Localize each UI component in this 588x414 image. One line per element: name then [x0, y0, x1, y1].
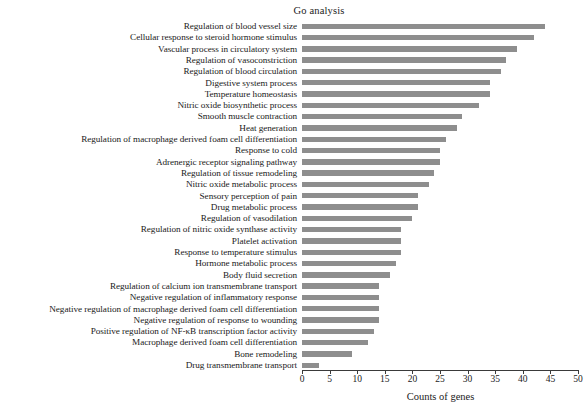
- x-tick-label: 20: [400, 374, 424, 384]
- bar: [302, 295, 379, 300]
- bar: [302, 238, 401, 243]
- category-label: Regulation of nitric oxide synthase acti…: [141, 224, 297, 235]
- bar-row: Heat generation: [0, 123, 588, 134]
- bar-row: Adrenergic receptor signaling pathway: [0, 157, 588, 168]
- bar: [302, 283, 379, 288]
- category-label: Nitric oxide biosynthetic process: [177, 100, 297, 111]
- bar-row: Platelet activation: [0, 236, 588, 247]
- bar: [302, 69, 501, 74]
- bar-row: Smooth muscle contraction: [0, 111, 588, 122]
- bar: [302, 57, 506, 62]
- category-label: Digestive system process: [205, 78, 297, 89]
- bar-row: Drug metabolic process: [0, 202, 588, 213]
- bar: [302, 137, 446, 142]
- bar: [302, 170, 434, 175]
- x-tick-label: 0: [290, 374, 314, 384]
- category-label: Response to cold: [235, 145, 297, 156]
- chart-title: Go analysis: [25, 5, 588, 16]
- category-label: Regulation of tissue remodeling: [181, 168, 297, 179]
- bar-row: Digestive system process: [0, 78, 588, 89]
- category-label: Platelet activation: [232, 236, 297, 247]
- x-axis-label: Counts of genes: [302, 391, 579, 402]
- bar-row: Regulation of vasoconstriction: [0, 55, 588, 66]
- category-label: Negative regulation of response to wound…: [134, 315, 297, 326]
- category-label: Drug metabolic process: [211, 202, 297, 213]
- category-label: Regulation of blood vessel size: [184, 21, 297, 32]
- bar-row: Regulation of macrophage derived foam ce…: [0, 134, 588, 145]
- bar-row: Regulation of tissue remodeling: [0, 168, 588, 179]
- bar-row: Regulation of blood circulation: [0, 66, 588, 77]
- category-label: Sensory perception of pain: [200, 191, 297, 202]
- bar-row: Temperature homeostasis: [0, 89, 588, 100]
- category-label: Smooth muscle contraction: [198, 111, 297, 122]
- bar: [302, 272, 390, 277]
- category-label: Hormone metabolic process: [195, 258, 297, 269]
- x-tick-label: 35: [483, 374, 507, 384]
- category-label: Cellular response to steroid hormone sti…: [130, 32, 297, 43]
- bar-row: Bone remodeling: [0, 349, 588, 360]
- bar: [302, 24, 545, 29]
- bar: [302, 114, 462, 119]
- category-label: Regulation of macrophage derived foam ce…: [81, 134, 297, 145]
- x-tick-label: 5: [318, 374, 342, 384]
- bar: [302, 204, 418, 209]
- bar: [302, 193, 418, 198]
- bar: [302, 306, 379, 311]
- bar-row: Negative regulation of response to wound…: [0, 315, 588, 326]
- category-label: Negative regulation of inflammatory resp…: [130, 292, 297, 303]
- category-label: Body fluid secretion: [223, 270, 297, 281]
- x-tick-label: 25: [428, 374, 452, 384]
- x-tick-label: 10: [345, 374, 369, 384]
- category-label: Vascular process in circulatory system: [158, 44, 297, 55]
- bar: [302, 216, 412, 221]
- bar: [302, 340, 368, 345]
- category-label: Regulation of blood circulation: [183, 66, 297, 77]
- bar: [302, 227, 401, 232]
- bar-row: Negative regulation of inflammatory resp…: [0, 292, 588, 303]
- bar-row: Nitric oxide biosynthetic process: [0, 100, 588, 111]
- category-label: Nitric oxide metabolic process: [186, 179, 297, 190]
- bar-row: Positive regulation of NF-κB transcripti…: [0, 326, 588, 337]
- category-label: Drug transmembrane transport: [186, 360, 297, 371]
- bar: [302, 317, 379, 322]
- category-label: Regulation of vasodilation: [201, 213, 297, 224]
- bar: [302, 261, 396, 266]
- category-label: Bone remodeling: [234, 349, 297, 360]
- bar: [302, 351, 352, 356]
- bar: [302, 363, 319, 368]
- category-label: Heat generation: [239, 123, 297, 134]
- bar-row: Regulation of vasodilation: [0, 213, 588, 224]
- category-label: Macrophage derived foam cell differentia…: [132, 337, 297, 348]
- bar-row: Nitric oxide metabolic process: [0, 179, 588, 190]
- bar: [302, 125, 457, 130]
- category-label: Response to temperature stimulus: [174, 247, 297, 258]
- x-tick-label: 45: [538, 374, 562, 384]
- category-label: Regulation of calcium ion transmembrane …: [110, 281, 297, 292]
- bar: [302, 159, 440, 164]
- bar-row: Body fluid secretion: [0, 270, 588, 281]
- bar: [302, 182, 429, 187]
- bar: [302, 91, 490, 96]
- bar: [302, 80, 490, 85]
- bar: [302, 35, 534, 40]
- bar-row: Vascular process in circulatory system: [0, 44, 588, 55]
- x-tick-label: 15: [373, 374, 397, 384]
- bar: [302, 329, 374, 334]
- bar-row: Macrophage derived foam cell differentia…: [0, 337, 588, 348]
- x-tick-label: 40: [511, 374, 535, 384]
- category-label: Adrenergic receptor signaling pathway: [156, 157, 297, 168]
- bar: [302, 148, 440, 153]
- bar-row: Sensory perception of pain: [0, 191, 588, 202]
- bar: [302, 46, 517, 51]
- bar-row: Response to cold: [0, 145, 588, 156]
- go-analysis-bar-chart: Go analysis Regulation of blood vessel s…: [0, 0, 588, 414]
- bar-row: Regulation of nitric oxide synthase acti…: [0, 224, 588, 235]
- bar-row: Cellular response to steroid hormone sti…: [0, 32, 588, 43]
- category-label: Positive regulation of NF-κB transcripti…: [91, 326, 297, 337]
- bar-row: Regulation of blood vessel size: [0, 21, 588, 32]
- bar: [302, 103, 479, 108]
- bar-row: Negative regulation of macrophage derive…: [0, 304, 588, 315]
- category-label: Temperature homeostasis: [205, 89, 297, 100]
- x-tick-label: 50: [566, 374, 588, 384]
- bar-row: Response to temperature stimulus: [0, 247, 588, 258]
